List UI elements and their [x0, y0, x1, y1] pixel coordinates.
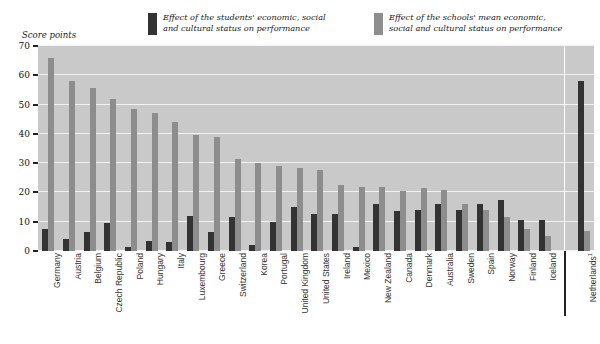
x-axis-label: Spain: [486, 253, 496, 275]
y-axis-tick-label: 60: [19, 70, 30, 80]
bar-schools[interactable]: [441, 190, 447, 252]
bar-group[interactable]: [266, 166, 287, 251]
y-axis-tick: 60: [19, 70, 38, 80]
gridline: [38, 45, 594, 46]
bar-group[interactable]: [79, 88, 100, 251]
x-axis-label: United States: [321, 253, 331, 304]
bar-group[interactable]: [307, 170, 328, 251]
bar-schools[interactable]: [524, 229, 530, 251]
bar-schools[interactable]: [504, 217, 510, 251]
bar-schools[interactable]: [545, 236, 551, 251]
x-axis-label: Greece: [217, 253, 227, 281]
x-axis-label: New Zealand: [383, 253, 393, 303]
bar-schools[interactable]: [90, 88, 96, 251]
y-axis-tick-label: 50: [19, 100, 30, 110]
x-axis-label: Hungary: [155, 253, 165, 285]
bar-group[interactable]: [493, 200, 514, 251]
legend-entry-schools: Effect of the schools' mean economic, so…: [374, 12, 564, 35]
bar-schools[interactable]: [317, 170, 323, 251]
bar-group[interactable]: [121, 109, 142, 251]
bar-group[interactable]: [535, 220, 556, 251]
bar-group[interactable]: [410, 188, 431, 251]
category-separator-line: [564, 46, 565, 251]
x-axis-label: Austria: [73, 253, 83, 279]
bar-schools[interactable]: [379, 187, 385, 251]
x-axis-label: Czech Republic: [114, 253, 124, 313]
bar-group[interactable]: [452, 204, 473, 251]
bar-schools[interactable]: [255, 163, 261, 251]
x-axis-label: Belgium: [93, 253, 103, 284]
legend-label-students: Effect of the students' economic, social…: [163, 12, 338, 33]
x-axis-label: Australia: [445, 253, 455, 286]
bar-schools[interactable]: [48, 58, 54, 251]
x-axis-label: Italy: [176, 253, 186, 269]
bar-schools[interactable]: [110, 99, 116, 251]
bar-group[interactable]: [431, 190, 452, 252]
bar-group[interactable]: [390, 191, 411, 251]
bar-group[interactable]: [573, 81, 594, 251]
bar-schools[interactable]: [483, 210, 489, 251]
bar-group[interactable]: [100, 99, 121, 251]
y-axis-tick: 50: [19, 100, 38, 110]
bar-group[interactable]: [286, 168, 307, 251]
bar-schools[interactable]: [276, 166, 282, 251]
bar-schools[interactable]: [297, 168, 303, 251]
y-axis-tick: 70: [19, 41, 38, 51]
bar-schools[interactable]: [193, 135, 199, 251]
y-axis-tick-label: 20: [19, 187, 30, 197]
bar-schools[interactable]: [131, 109, 137, 251]
x-axis-label: Norway: [507, 253, 517, 282]
gridline: [38, 74, 594, 75]
y-axis-tick-label: 0: [24, 246, 30, 256]
y-axis-tick: 40: [19, 129, 38, 139]
x-axis-label: Portugal: [279, 253, 289, 285]
plot-area: [38, 46, 594, 251]
x-axis-label: Canada: [404, 253, 414, 283]
bar-group[interactable]: [369, 187, 390, 251]
bar-schools[interactable]: [584, 231, 590, 252]
x-axis-label: Germany: [52, 253, 62, 288]
bar-schools[interactable]: [359, 187, 365, 251]
bar-group[interactable]: [162, 122, 183, 251]
x-axis-label: Korea: [259, 253, 269, 276]
bar-students[interactable]: [578, 81, 584, 251]
bar-group[interactable]: [141, 113, 162, 251]
x-axis-label: Netherlands1: [587, 253, 598, 302]
bar-schools[interactable]: [214, 137, 220, 251]
bar-group[interactable]: [514, 220, 535, 251]
y-axis-tick-label: 10: [19, 217, 30, 227]
bar-schools[interactable]: [235, 159, 241, 251]
x-axis-label: Luxembourg: [197, 253, 207, 300]
y-axis-title: Score points: [22, 30, 76, 40]
chart-legend: Effect of the students' economic, social…: [148, 12, 564, 35]
x-axis-label: Finland: [528, 253, 538, 281]
bar-group[interactable]: [183, 135, 204, 251]
bar-group[interactable]: [38, 58, 59, 251]
bar-schools[interactable]: [421, 188, 427, 251]
y-axis-tick: 0: [24, 246, 38, 256]
bar-group[interactable]: [245, 163, 266, 251]
y-axis-tick-label: 70: [19, 41, 30, 51]
bar-schools[interactable]: [400, 191, 406, 251]
x-axis-label: Sweden: [466, 253, 476, 284]
y-axis-tick-label: 40: [19, 129, 30, 139]
bar-group[interactable]: [328, 185, 349, 251]
bar-schools[interactable]: [69, 81, 75, 251]
x-axis-label: Switzerland: [238, 253, 248, 297]
y-axis-tick-label: 30: [19, 158, 30, 168]
x-axis-label: United Kingdom: [300, 253, 310, 313]
y-axis-tick: 30: [19, 158, 38, 168]
bar-schools[interactable]: [338, 185, 344, 251]
bar-group[interactable]: [59, 81, 80, 251]
y-axis-tick: 20: [19, 187, 38, 197]
bar-schools[interactable]: [152, 113, 158, 251]
bar-group[interactable]: [224, 159, 245, 251]
bar-group[interactable]: [473, 204, 494, 251]
legend-swatch-students: [148, 13, 157, 35]
bar-schools[interactable]: [462, 204, 468, 251]
legend-entry-students: Effect of the students' economic, social…: [148, 12, 338, 35]
bar-group[interactable]: [204, 137, 225, 251]
bar-schools[interactable]: [172, 122, 178, 251]
legend-swatch-schools: [374, 13, 383, 35]
bar-group[interactable]: [348, 187, 369, 251]
